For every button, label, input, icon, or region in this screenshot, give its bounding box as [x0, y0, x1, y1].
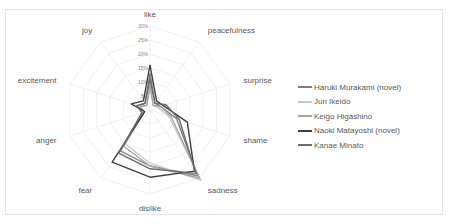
axis-label-peacefulness: peacefulness [208, 26, 255, 35]
legend-item: Jun Ikeido [298, 95, 401, 110]
axis-label-like: like [144, 10, 157, 19]
legend-item: Haruki Murakami (novel) [298, 80, 401, 95]
legend-label: Keigo Higashino [314, 112, 372, 121]
axis-label-anger: anger [36, 136, 57, 145]
legend-swatch [298, 101, 312, 103]
series-line [112, 65, 194, 177]
legend-swatch [298, 115, 312, 117]
series-line [119, 79, 196, 173]
legend-swatch [298, 130, 312, 132]
axis-label-sadness: sadness [208, 186, 238, 195]
legend-swatch [298, 144, 312, 146]
legend-label: Haruki Murakami (novel) [314, 83, 401, 92]
legend-label: Jun Ikeido [314, 97, 350, 106]
axis-label-fear: fear [78, 186, 92, 195]
axis-label-joy: joy [81, 26, 92, 35]
axis-label-excitement: excitement [18, 76, 57, 85]
grid-spoke [150, 42, 199, 110]
axis-label-surprise: surprise [243, 76, 272, 85]
tick-label: 20% [138, 51, 149, 57]
legend-label: Naoki Matayoshi (novel) [314, 126, 400, 135]
legend: Haruki Murakami (novel) Jun Ikeido Keigo… [298, 80, 401, 153]
legend-swatch [298, 86, 312, 88]
axis-label-dislike: dislike [139, 204, 162, 213]
axis-label-shame: shame [243, 136, 268, 145]
tick-label: 15% [138, 65, 149, 71]
tick-label: 25% [138, 37, 149, 43]
radar-series [112, 65, 201, 180]
tick-label: 30% [138, 23, 149, 29]
legend-label: Kanae Minato [314, 141, 363, 150]
legend-item: Naoki Matayoshi (novel) [298, 124, 401, 139]
legend-item: Keigo Higashino [298, 109, 401, 124]
legend-item: Kanae Minato [298, 138, 401, 153]
